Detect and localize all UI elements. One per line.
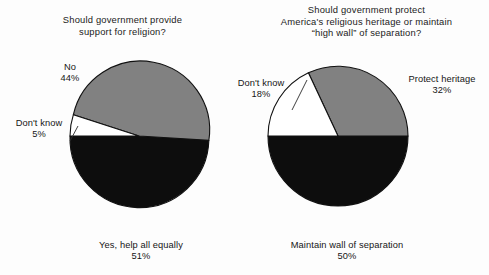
pie-label-protect-heritage: Protect heritage 32%	[396, 74, 488, 96]
pie-chart-2	[244, 0, 489, 275]
chart-panel-religious-heritage: Should government protect America's reli…	[244, 0, 489, 275]
pie-label-maintain-wall-of-separation: Maintain wall of separation 50%	[272, 240, 422, 262]
pie-label-no: No 44%	[44, 62, 96, 84]
pie-label-dont-know: Don't know 18%	[225, 78, 297, 100]
pie-label-dont-know: Don't know 5%	[2, 118, 76, 140]
pie-label-yes-help-all-equally: Yes, help all equally 51%	[78, 240, 204, 262]
pie-slice-maintain-wall-of-separation	[268, 136, 408, 206]
pie-chart-figure: Should government provide support for re…	[0, 0, 489, 275]
pie-slice-yes-help-all-equally	[70, 136, 209, 208]
chart-panel-religion-support: Should government provide support for re…	[0, 0, 245, 275]
